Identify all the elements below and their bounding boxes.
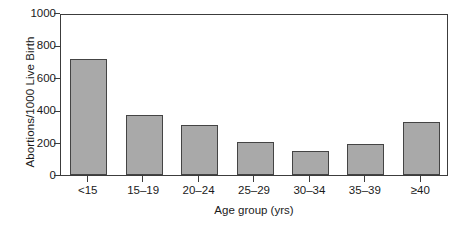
y-axis-tick: [54, 143, 60, 144]
x-axis-tick-label: 25–29: [238, 184, 270, 197]
bar: [237, 142, 274, 175]
x-axis-tick: [142, 176, 143, 182]
x-axis-tick: [309, 176, 310, 182]
bar-chart-figure: Abortions/1000 Live Birth 02004006008001…: [0, 0, 469, 234]
y-axis-tick-label: 200: [22, 138, 56, 149]
x-axis-tick-label: 30–34: [293, 184, 325, 197]
plot-area: [60, 14, 448, 176]
x-axis-tick-label: 15–19: [127, 184, 159, 197]
y-axis-tick-label: 1000: [22, 8, 56, 19]
y-axis-tick-labels: 02004006008001000: [22, 0, 56, 234]
x-axis-title: Age group (yrs): [60, 204, 448, 216]
x-axis-tick-label: 35–39: [349, 184, 381, 197]
y-axis-tick: [54, 46, 60, 47]
bar: [347, 144, 384, 175]
bar: [126, 115, 163, 175]
bar: [403, 122, 440, 175]
y-axis-tick: [54, 175, 60, 176]
y-axis-tick: [54, 111, 60, 112]
bar: [181, 125, 218, 175]
y-axis-tick-label: 600: [22, 73, 56, 84]
y-axis-tick: [54, 13, 60, 14]
x-axis-tick: [87, 176, 88, 182]
bar: [292, 151, 329, 175]
bar-series: [61, 15, 447, 175]
x-axis-tick: [420, 176, 421, 182]
bar: [70, 59, 107, 175]
y-axis-tick-label: 800: [22, 40, 56, 51]
x-axis-tick-label: 20–24: [183, 184, 215, 197]
y-axis-tick-label: 0: [22, 170, 56, 181]
x-axis-tick: [364, 176, 365, 182]
y-axis-tick-label: 400: [22, 105, 56, 116]
x-axis-tick-label: ≥40: [411, 184, 430, 197]
x-axis-tick: [198, 176, 199, 182]
x-axis-tick-label: <15: [78, 184, 98, 197]
x-axis-tick: [253, 176, 254, 182]
y-axis-tick: [54, 78, 60, 79]
